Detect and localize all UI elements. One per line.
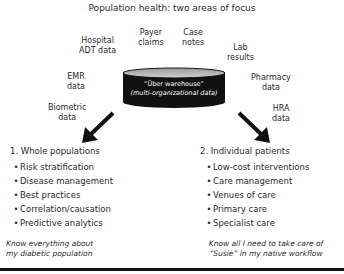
list-item: •Specialist care [205, 216, 309, 230]
list-item: •Primary care [205, 202, 309, 216]
bullet-icon: • [205, 202, 213, 216]
warehouse-label: “Über warehouse” (multi-organizational d… [122, 80, 226, 98]
bullet-icon: • [12, 188, 20, 202]
arrow-down-left-icon [78, 110, 118, 146]
source-hra: HRA data [272, 104, 290, 124]
source-label-line: data [67, 82, 85, 92]
caption-line: Know everything about [6, 239, 93, 249]
source-label-line: EMR [67, 72, 85, 82]
list-item: •Predictive analytics [12, 216, 113, 230]
list-item: •Risk stratification [12, 160, 113, 174]
list-item: •Venues of care [205, 188, 309, 202]
bullet-icon: • [205, 216, 213, 230]
source-label-line: Payer [138, 28, 164, 38]
diagram-title: Population health: two areas of focus [0, 3, 344, 13]
source-label-line: claims [138, 38, 164, 48]
list-item: •Best practices [12, 188, 113, 202]
source-label-line: data [251, 83, 291, 93]
bottom-divider [0, 268, 344, 271]
source-label-line: data [272, 114, 290, 124]
bullet-icon: • [12, 160, 20, 174]
source-label-line: HRA [272, 104, 290, 114]
source-emr: EMR data [67, 72, 85, 92]
bullet-icon: • [12, 174, 20, 188]
list-item: •Low-cost interventions [205, 160, 309, 174]
bullet-icon: • [12, 216, 20, 230]
source-label-line: ADT data [79, 46, 116, 56]
individual-patients-list: •Low-cost interventions •Care management… [205, 160, 309, 230]
source-label-line: results [227, 53, 254, 63]
bullet-icon: • [205, 188, 213, 202]
source-payer-claims: Payer claims [138, 28, 164, 48]
warehouse-title: “Über warehouse” [122, 80, 226, 89]
source-label-line: Pharmacy [251, 73, 291, 83]
source-label-line: notes [182, 38, 204, 48]
whole-populations-heading: 1. Whole populations [10, 146, 100, 156]
caption-line: my diabetic population [6, 249, 93, 259]
individual-patients-heading: 2. Individual patients [200, 146, 290, 156]
source-lab-results: Lab results [227, 43, 254, 63]
bullet-icon: • [205, 160, 213, 174]
bullet-icon: • [12, 202, 20, 216]
bullet-icon: • [205, 174, 213, 188]
individual-patients-caption: Know all I need to take care of “Susie” … [196, 239, 336, 259]
source-label-line: Case [182, 28, 204, 38]
caption-line: Know all I need to take care of [196, 239, 336, 249]
whole-populations-caption: Know everything about my diabetic popula… [6, 239, 93, 259]
list-item: •Care management [205, 174, 309, 188]
source-label-line: Lab [227, 43, 254, 53]
caption-line: “Susie” in my native workflow [196, 249, 336, 259]
list-item: •Disease management [12, 174, 113, 188]
whole-populations-list: •Risk stratification •Disease management… [12, 160, 113, 230]
source-pharmacy: Pharmacy data [251, 73, 291, 93]
source-case-notes: Case notes [182, 28, 204, 48]
source-label-line: Hospital [79, 36, 116, 46]
source-hospital-adt: Hospital ADT data [79, 36, 116, 56]
warehouse-subtitle: (multi-organizational data) [122, 89, 226, 98]
list-item: •Correlation/causation [12, 202, 113, 216]
arrow-down-right-icon [234, 110, 274, 146]
